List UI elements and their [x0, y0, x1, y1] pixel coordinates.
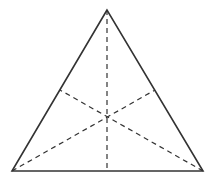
median-from-bottom-left	[12, 90, 155, 171]
median-from-bottom-right	[60, 90, 203, 171]
triangle-diagram	[0, 0, 210, 185]
